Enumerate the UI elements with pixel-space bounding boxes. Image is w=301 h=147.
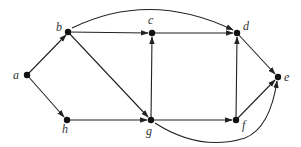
node-label-c: c xyxy=(148,13,154,27)
node-label-g: g xyxy=(146,124,152,138)
edge-b-g xyxy=(68,32,148,117)
edge-f-d xyxy=(236,37,237,120)
node-label-b: b xyxy=(56,20,62,34)
edge-g-c xyxy=(151,37,152,120)
node-g xyxy=(148,117,154,123)
edge-g-e xyxy=(155,81,277,143)
node-b xyxy=(65,29,71,35)
node-label-f: f xyxy=(242,118,247,132)
node-c xyxy=(149,30,155,36)
node-label-a: a xyxy=(13,68,19,82)
node-label-e: e xyxy=(284,70,290,84)
directed-graph: abcdefgh xyxy=(0,0,301,147)
edge-d-e xyxy=(237,33,275,74)
nodes-group xyxy=(24,29,281,123)
node-label-d: d xyxy=(243,19,250,33)
edge-b-c xyxy=(68,32,148,33)
node-d xyxy=(234,30,240,36)
edge-a-b xyxy=(27,35,66,75)
node-a xyxy=(24,72,30,78)
edge-f-e xyxy=(236,80,275,120)
node-label-h: h xyxy=(62,122,68,136)
edge-a-h xyxy=(27,75,64,117)
node-f xyxy=(233,117,239,123)
node-e xyxy=(275,74,281,80)
